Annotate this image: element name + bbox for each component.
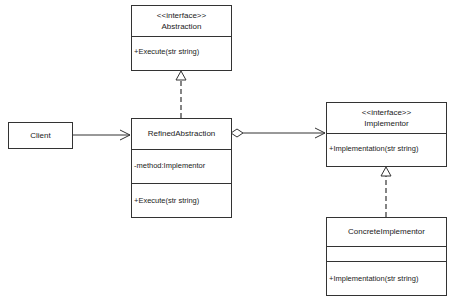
class-name: Implementor: [327, 118, 446, 129]
association-client-refined: [72, 130, 130, 140]
methods-compartment: +Execute(str string): [132, 36, 231, 70]
stereotype-label: <<interface>>: [327, 107, 446, 118]
class-name: Abstraction: [132, 21, 231, 32]
attributes-compartment: -method:Implementor: [132, 149, 231, 183]
methods-compartment: +Implementation(str string): [327, 133, 446, 166]
attribute-label: -method:Implementor: [132, 161, 231, 170]
attributes-compartment: [327, 246, 446, 261]
method-label: +Implementation(str string): [327, 144, 446, 153]
realization-refined-abstraction: [176, 71, 186, 118]
class-concrete-implementor[interactable]: ConcreteImplementor +Implementation(str …: [326, 217, 447, 296]
class-abstraction[interactable]: <<interface>> Abstraction +Execute(str s…: [131, 5, 232, 71]
hollow-diamond-icon: [231, 129, 243, 137]
stereotype-label: <<interface>>: [132, 10, 231, 21]
class-header: <<interface>> Abstraction: [132, 10, 231, 36]
method-label: +Execute(str string): [132, 47, 231, 56]
methods-compartment: +Implementation(str string): [327, 261, 446, 295]
realization-concrete-implementor: [381, 167, 391, 217]
class-name: Client: [9, 123, 72, 148]
hollow-triangle-icon: [381, 167, 391, 176]
hollow-triangle-icon: [176, 71, 186, 80]
class-client[interactable]: Client: [8, 122, 73, 149]
method-label: +Implementation(str string): [327, 274, 446, 283]
class-header: ConcreteImplementor: [327, 218, 446, 246]
class-header: RefinedAbstraction: [132, 119, 231, 149]
methods-compartment: +Execute(str string): [132, 183, 231, 217]
class-implementor[interactable]: <<interface>> Implementor +Implementatio…: [326, 102, 447, 167]
aggregation-refined-implementor: [231, 128, 325, 138]
class-header: <<interface>> Implementor: [327, 107, 446, 133]
class-name: ConcreteImplementor: [348, 227, 425, 236]
method-label: +Execute(str string): [132, 196, 231, 205]
class-name: RefinedAbstraction: [148, 129, 216, 138]
class-refined-abstraction[interactable]: RefinedAbstraction -method:Implementor +…: [131, 118, 232, 218]
